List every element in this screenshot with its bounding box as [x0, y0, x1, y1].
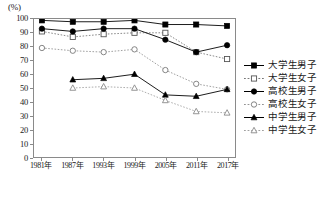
legend-item-1: 大学生男子	[243, 59, 317, 72]
data-point	[101, 83, 107, 88]
data-point	[224, 110, 230, 115]
x-tick-mark	[166, 158, 167, 161]
legend-label: 高校生男子	[268, 86, 317, 97]
y-tick-label: 40	[4, 98, 28, 107]
x-tick-label: 2011年	[186, 161, 208, 170]
data-point	[70, 29, 75, 34]
y-tick-mark	[30, 158, 33, 159]
data-point	[101, 19, 106, 24]
y-tick-label: 100	[4, 14, 28, 23]
data-point	[163, 67, 168, 72]
series-2	[39, 29, 229, 62]
x-tick-mark	[228, 158, 229, 161]
legend-marker-icon	[243, 86, 265, 97]
data-point	[39, 19, 44, 23]
legend-marker-icon	[243, 60, 265, 71]
y-tick-label: 10	[4, 140, 28, 149]
series-line	[42, 48, 227, 89]
data-point	[132, 47, 137, 52]
series-6	[70, 83, 230, 115]
y-tick-label: 50	[4, 84, 28, 93]
y-tick-label: 60	[4, 70, 28, 79]
series-line	[73, 87, 227, 113]
data-point	[194, 22, 199, 27]
y-tick-label: 0	[4, 154, 28, 163]
data-point	[193, 108, 199, 113]
data-point	[70, 34, 75, 39]
data-point	[163, 30, 168, 35]
series-5	[70, 71, 230, 99]
data-point	[162, 97, 168, 102]
y-tick-label: 70	[4, 56, 28, 65]
legend-label: 大学生男子	[268, 60, 317, 71]
x-tick-label: 1987年	[61, 161, 83, 170]
data-point	[132, 71, 138, 76]
x-tick-label: 1981年	[30, 161, 52, 170]
legend-item-2: 大学生女子	[243, 72, 317, 85]
y-axis-unit-label: (%)	[8, 2, 21, 12]
y-tick-label: 30	[4, 112, 28, 121]
data-point	[225, 23, 230, 28]
data-point	[225, 56, 230, 61]
x-tick-mark	[103, 158, 104, 161]
series-canvas	[34, 19, 235, 157]
data-point	[194, 81, 199, 86]
x-tick-label: 2005年	[155, 161, 177, 170]
legend-item-5: 中学生男子	[243, 111, 317, 124]
x-tick-mark	[41, 158, 42, 161]
legend-label: 中学生女子	[268, 125, 317, 136]
data-point	[70, 48, 75, 53]
x-tick-mark	[72, 158, 73, 161]
x-tick-mark	[197, 158, 198, 161]
data-point	[132, 19, 137, 23]
data-point	[194, 49, 199, 54]
data-point	[224, 43, 229, 48]
data-point	[39, 45, 44, 50]
legend-label: 中学生男子	[268, 112, 317, 123]
y-tick-label: 20	[4, 126, 28, 135]
chart-root: (%) 1009080706050403020100 1981年1987年199…	[0, 0, 318, 203]
data-point	[70, 85, 76, 90]
y-tick-label: 90	[4, 28, 28, 37]
data-point	[101, 26, 106, 31]
data-point	[163, 22, 168, 27]
data-point	[132, 26, 137, 31]
legend-label: 高校生女子	[268, 99, 317, 110]
plot-area	[33, 18, 236, 158]
data-point	[101, 49, 106, 54]
data-point	[101, 32, 106, 37]
chart-legend: 大学生男子大学生女子高校生男子高校生女子中学生男子中学生女子	[243, 59, 317, 137]
legend-marker-icon	[243, 73, 265, 84]
data-point	[132, 85, 138, 90]
data-point	[163, 37, 168, 42]
x-tick-label: 2017年	[217, 161, 239, 170]
y-tick-label: 80	[4, 42, 28, 51]
x-tick-label: 1993年	[92, 161, 114, 170]
legend-marker-icon	[243, 112, 265, 123]
x-tick-label: 1999年	[123, 161, 145, 170]
x-tick-mark	[135, 158, 136, 161]
legend-item-4: 高校生女子	[243, 98, 317, 111]
data-point	[39, 26, 44, 31]
data-point	[70, 19, 75, 24]
legend-item-3: 高校生男子	[243, 85, 317, 98]
legend-label: 大学生女子	[268, 73, 317, 84]
legend-marker-icon	[243, 99, 265, 110]
legend-marker-icon	[243, 125, 265, 136]
legend-item-6: 中学生女子	[243, 124, 317, 137]
